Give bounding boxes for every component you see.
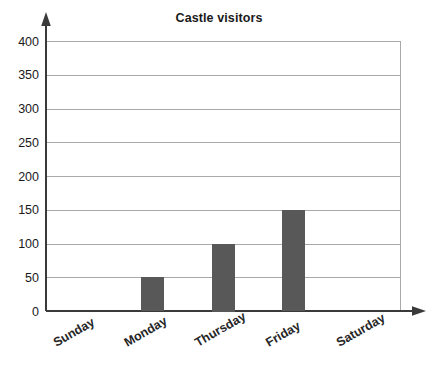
x-tick-label-monday: Monday	[122, 314, 170, 350]
bar-friday	[282, 210, 305, 311]
x-tick-label-thursday: Thursday	[193, 309, 249, 349]
chart-title: Castle visitors	[176, 11, 263, 25]
y-tick-label-300: 300	[18, 102, 39, 116]
x-axis-arrow-icon	[412, 306, 426, 316]
y-tick-label-50: 50	[25, 271, 39, 285]
y-tick-label-350: 350	[18, 68, 39, 82]
y-tick-label-0: 0	[32, 305, 39, 319]
y-tick-label-200: 200	[18, 170, 39, 184]
x-axis-tick-labels: SundayMondayThursdayFridaySaturday	[51, 309, 388, 349]
bar-thursday	[212, 244, 235, 312]
y-tick-label-100: 100	[18, 237, 39, 251]
x-tick-label-friday: Friday	[263, 319, 303, 350]
y-axis-tick-labels: 050100150200250300350400	[18, 35, 39, 319]
y-tick-label-250: 250	[18, 136, 39, 150]
bar-monday	[141, 277, 164, 311]
castle-visitors-bar-chart: 050100150200250300350400 SundayMondayThu…	[0, 0, 439, 373]
x-tick-label-saturday: Saturday	[334, 311, 387, 350]
x-tick-label-sunday: Sunday	[51, 315, 97, 350]
chart-container: 050100150200250300350400 SundayMondayThu…	[0, 0, 439, 373]
y-tick-label-150: 150	[18, 203, 39, 217]
y-tick-label-400: 400	[18, 35, 39, 49]
y-axis-arrow-icon	[41, 12, 51, 26]
